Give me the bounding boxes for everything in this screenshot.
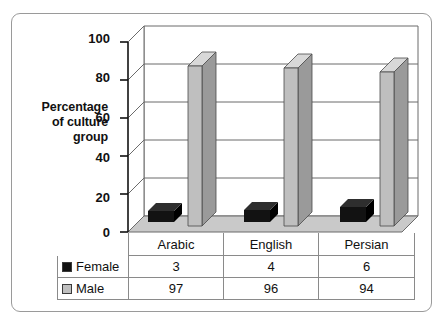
data-table: Female 3 4 6 Male 97 96 94	[57, 256, 415, 301]
left-wall	[128, 26, 144, 232]
legend-item-female: Female	[57, 256, 128, 278]
chart-figure: Percentage of culture group 100 80 60 40…	[0, 0, 443, 326]
bar-male-english-side	[298, 54, 312, 226]
y-axis-title-line-3: group	[16, 130, 108, 145]
legend-swatch-male-icon	[62, 284, 72, 294]
table-row: Female 3 4 6	[57, 256, 415, 278]
y-tick-label-60: 60	[76, 110, 110, 125]
bar-female-persian-front	[340, 207, 366, 222]
category-label-arabic: Arabic	[128, 233, 223, 256]
back-wall	[144, 26, 418, 216]
bar-male-arabic-front	[188, 66, 202, 226]
bar-female-english-front	[244, 210, 270, 222]
bar-male-persian-side	[394, 58, 408, 226]
y-tick-label-40: 40	[76, 150, 110, 165]
legend-label-male: Male	[76, 281, 104, 296]
legend-label-female: Female	[76, 259, 119, 274]
y-tick-label-80: 80	[76, 70, 110, 85]
category-header-row: Arabic English Persian	[128, 233, 415, 256]
cell-male-arabic: 97	[128, 278, 223, 300]
legend-swatch-female-icon	[62, 262, 72, 272]
y-tick-label-20: 20	[76, 190, 110, 205]
cell-male-persian: 94	[318, 278, 415, 300]
category-label-english: English	[223, 233, 318, 256]
bar-female-arabic-front	[148, 211, 174, 222]
y-tick-label-100: 100	[76, 31, 110, 46]
plot-area	[112, 22, 422, 244]
category-label-persian: Persian	[318, 233, 415, 256]
cell-female-arabic: 3	[128, 256, 223, 278]
plot-svg	[112, 22, 422, 244]
cell-female-persian: 6	[318, 256, 415, 278]
bar-male-persian-front	[380, 72, 394, 226]
cell-male-english: 96	[223, 278, 318, 300]
bar-male-english-front	[284, 68, 298, 226]
legend-item-male: Male	[57, 278, 128, 300]
bar-male-arabic-side	[202, 52, 216, 226]
y-tick-label-0: 0	[76, 225, 110, 240]
cell-female-english: 4	[223, 256, 318, 278]
table-row: Male 97 96 94	[57, 278, 415, 300]
